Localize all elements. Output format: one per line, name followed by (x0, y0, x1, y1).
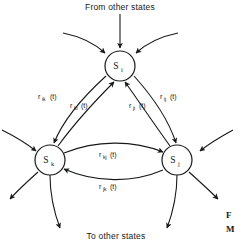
rate-label-ki-subscript: ki (74, 105, 78, 111)
rate-label-ki-base: r (70, 102, 73, 109)
rate-label-kj-base: r (99, 151, 102, 158)
rate-label-ji-base: r (129, 102, 132, 109)
caption-from-other-states: From other states (85, 2, 155, 12)
rate-label-jk-subscript: jk (102, 186, 107, 192)
state-node-sk[interactable]: S k (35, 145, 65, 175)
external-arrows-into-si (63, 14, 178, 53)
rate-label-ki-suffix: (t) (81, 102, 88, 110)
transition-arrow-ik (54, 76, 106, 143)
state-node-si-label: S (113, 61, 118, 71)
transition-rate-label-kj: r kj (t) (99, 151, 117, 160)
rate-label-ij-suffix: (t) (170, 93, 177, 101)
external-arrow-out-of-sj-down (167, 175, 177, 228)
external-arrow-into-sj-upper-right (200, 130, 233, 151)
transition-rate-label-ik: r ik (t) (38, 93, 57, 102)
rate-label-ji-suffix: (t) (139, 102, 146, 110)
state-node-si-subscript: i (121, 66, 123, 73)
rate-label-ij-base: r (160, 93, 163, 100)
state-node-si-circle[interactable] (105, 51, 135, 81)
rate-label-jk-base: r (99, 183, 102, 190)
figure-caption-line1: F (226, 210, 232, 220)
rate-label-ij-subscript: ij (164, 96, 166, 102)
figure-root: S i S k S j r ik (t) r ki (t) r ji (0, 0, 244, 243)
rate-label-ji-subscript: ji (132, 105, 135, 111)
transition-rate-label-ji: r ji (t) (129, 102, 146, 111)
external-arrow-out-of-sj-lower-right (189, 172, 218, 199)
external-arrow-out-of-sk-lower-left (10, 172, 38, 199)
transition-arrow-ij (134, 76, 176, 143)
transition-rate-label-ij: r ij (t) (160, 93, 177, 102)
transition-arrow-ki (58, 82, 114, 146)
rate-label-ik-suffix: (t) (50, 93, 57, 101)
state-node-sj-subscript: j (177, 160, 180, 167)
state-node-sk-label: S (43, 155, 48, 165)
state-node-si[interactable]: S i (105, 51, 135, 81)
external-arrow-top-left (63, 33, 105, 53)
rate-label-kj-subscript: kj (103, 154, 107, 160)
state-transition-diagram: S i S k S j r ik (t) r ki (t) r ji (0, 0, 244, 243)
state-node-sj-label: S (170, 155, 175, 165)
rate-label-ik-base: r (38, 93, 41, 100)
state-node-sj[interactable]: S j (162, 145, 192, 175)
external-arrow-top-right (136, 33, 178, 53)
external-arrow-out-of-sk-down (50, 175, 60, 228)
rate-label-kj-suffix: (t) (110, 151, 117, 159)
figure-caption-line2: M (226, 224, 235, 234)
rate-label-ik-subscript: ik (42, 96, 46, 102)
caption-to-other-states: To other states (87, 231, 146, 241)
rate-label-jk-suffix: (t) (110, 183, 117, 191)
transition-rate-label-jk: r jk (t) (99, 183, 117, 192)
transition-arrow-jk (64, 169, 163, 180)
external-arrow-into-sk-upper-left (2, 130, 36, 151)
state-node-sj-circle[interactable] (162, 145, 192, 175)
